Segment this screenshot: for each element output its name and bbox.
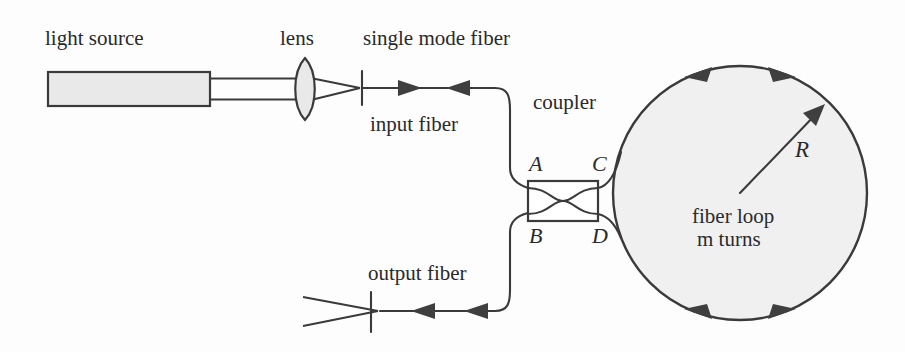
input-fiber-arrow-left	[446, 80, 470, 96]
label-radius: R	[794, 137, 809, 162]
output-cone-upper	[303, 297, 378, 311]
label-port-d: D	[591, 223, 608, 248]
label-port-a: A	[527, 151, 543, 176]
label-fiber-loop-line2: m turns	[697, 227, 761, 251]
label-port-b: B	[529, 223, 542, 248]
label-single-mode-fiber: single mode fiber	[363, 26, 510, 50]
label-port-c: C	[592, 151, 607, 176]
lens	[295, 58, 315, 120]
label-coupler: coupler	[533, 90, 596, 114]
label-light-source: light source	[45, 26, 144, 50]
converging-ray-upper	[313, 79, 360, 89]
light-source-box	[48, 72, 210, 106]
diagram-canvas: light source lens single mode fiber inpu…	[0, 0, 905, 352]
converging-ray-lower	[313, 88, 360, 100]
output-cone-lower	[303, 311, 378, 326]
label-input-fiber: input fiber	[370, 112, 458, 136]
fiber-optic-gyroscope-diagram: light source lens single mode fiber inpu…	[0, 0, 905, 352]
label-output-fiber: output fiber	[368, 261, 467, 285]
input-fiber-path	[362, 88, 528, 188]
output-fiber-arrow-left-2	[464, 303, 488, 319]
input-fiber-arrow-right	[398, 80, 422, 96]
label-fiber-loop-line1: fiber loop	[692, 204, 774, 228]
output-fiber-arrow-left-1	[411, 303, 435, 319]
label-lens: lens	[280, 26, 314, 50]
